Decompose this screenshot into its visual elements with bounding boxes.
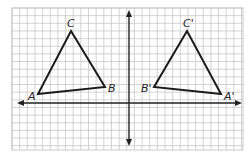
arrow-right-icon <box>235 100 242 106</box>
coordinate-axes <box>17 10 242 146</box>
coordinate-grid-diagram: ABCA'B'C' <box>0 0 248 158</box>
vertex-label: B <box>108 82 116 95</box>
vertex-label: A <box>27 90 36 103</box>
vertex-label: B' <box>141 82 152 95</box>
vertex-label: A' <box>223 90 235 103</box>
arrow-left-icon <box>17 100 24 106</box>
vertex-label: C' <box>183 17 194 30</box>
vertex-label: C <box>67 17 75 30</box>
